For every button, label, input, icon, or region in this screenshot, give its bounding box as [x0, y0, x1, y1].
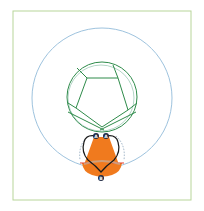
- diagram-canvas: A A B: [0, 0, 204, 211]
- orange-base: [82, 163, 122, 177]
- node-b-label: B: [99, 176, 103, 181]
- node-a-right-label: A: [104, 134, 108, 139]
- node-a-left-label: A: [94, 134, 98, 139]
- node-b: B: [98, 175, 104, 181]
- spoke-cross-right: [100, 112, 136, 130]
- spoke-2: [113, 65, 118, 78]
- node-a-right: A: [103, 133, 109, 139]
- node-a-left: A: [93, 133, 99, 139]
- dashed-arc-left: [80, 136, 88, 160]
- spoke-1: [77, 68, 87, 78]
